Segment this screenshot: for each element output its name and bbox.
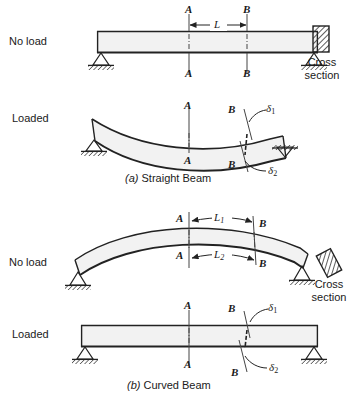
section-label-B-bottom-curved: B (259, 257, 266, 269)
panel-straight-no-load (88, 14, 327, 74)
section-label-A-top-curved: A (176, 212, 183, 224)
caption-b: (b) Curved Beam (127, 379, 211, 391)
panel-curved-loaded (72, 309, 327, 372)
section-label-A-bottom-straight-loaded: A (184, 154, 191, 166)
section-label-A-top-straight-loaded: A (184, 99, 191, 111)
delta1-subscript-straight: 1 (271, 107, 275, 116)
dimension-L-base: L (214, 18, 220, 30)
section-label-A-top-curved-loaded: A (184, 299, 191, 311)
caption-a: (a) Straight Beam (125, 172, 211, 184)
beam-body-curved-loaded (81, 325, 318, 347)
delta2-subscript-straight: 2 (273, 169, 277, 178)
cross-section-line2-straight: section (293, 69, 351, 82)
section-label-B-top-straight: B (243, 3, 250, 15)
state-label-no-load-curved: No load (9, 256, 47, 268)
section-label-B-top-straight-loaded: B (228, 103, 235, 115)
deflection-label-delta2-straight: δ2 (268, 164, 277, 179)
delta1-subscript-curved: 1 (273, 306, 277, 315)
caption-a-tag: (a) (125, 172, 138, 184)
cross-section-curved-glyph (316, 249, 341, 278)
cross-section-line1-curved: Cross (300, 278, 358, 291)
state-label-no-load-straight: No load (9, 35, 47, 47)
section-label-B-top-curved: B (259, 217, 266, 229)
support-right-pin-curved-loaded (301, 347, 327, 364)
cross-section-caption-straight: Cross section (293, 56, 351, 81)
caption-b-tag: (b) (127, 379, 140, 391)
leader-delta2-curved (245, 356, 267, 368)
section-label-B-bottom-straight: B (243, 67, 250, 79)
section-label-A-bottom-straight: A (185, 67, 192, 79)
section-label-A-top-straight: A (185, 3, 192, 15)
cross-section-straight-glyph (313, 26, 329, 52)
delta2-subscript-curved: 2 (274, 366, 278, 375)
section-label-B-bottom-curved-loaded: B (231, 366, 238, 378)
section-line-B-upper-rotated (244, 109, 252, 140)
support-left-pin-curved (65, 272, 91, 290)
deflection-label-delta1-straight: δ1 (266, 102, 275, 117)
beam-body-curved-noload (75, 228, 308, 275)
section-label-B-top-curved-loaded: B (228, 302, 235, 314)
state-label-loaded-straight: Loaded (12, 112, 49, 124)
cross-section-line1-straight: Cross (293, 56, 351, 69)
cross-section-line2-curved: section (300, 291, 358, 304)
figure-root: No load A B A B L Cross section Loaded A… (0, 0, 358, 402)
beam-body-straight-noload (97, 31, 318, 53)
panel-curved-no-load (65, 212, 315, 290)
dimension-label-L2: L2 (214, 248, 224, 263)
dimension-label-L: L (214, 18, 220, 30)
leader-delta1-straight (249, 110, 266, 122)
deflection-label-delta1-curved: δ1 (268, 301, 277, 316)
deflection-label-delta2-curved: δ2 (269, 361, 278, 376)
leader-delta1-curved (250, 309, 268, 322)
state-label-loaded-curved: Loaded (12, 328, 49, 340)
cross-section-caption-curved: Cross section (300, 278, 358, 303)
support-left-pin-curved-loaded (72, 347, 98, 364)
section-label-A-bottom-curved-loaded: A (184, 358, 191, 370)
section-label-A-bottom-curved: A (176, 249, 183, 261)
caption-a-text: Straight Beam (142, 172, 212, 184)
dimension-L1-subscript: 1 (220, 216, 224, 225)
section-label-B-bottom-straight-loaded: B (228, 158, 235, 170)
support-left-pin (88, 53, 114, 70)
dimension-L2-subscript: 2 (220, 253, 224, 262)
dimension-label-L1: L1 (214, 211, 224, 226)
caption-b-text: Curved Beam (144, 379, 211, 391)
